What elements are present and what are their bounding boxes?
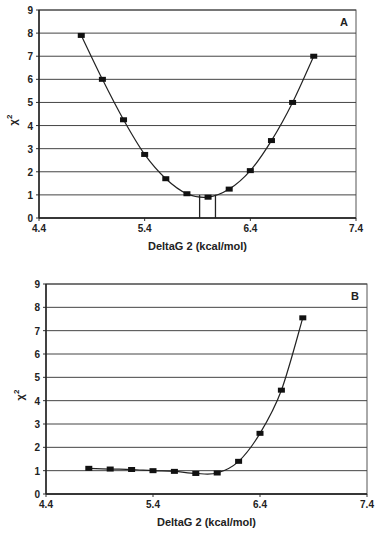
y-tick-label: 5 (27, 97, 33, 108)
y-tick-label: 1 (27, 190, 33, 201)
panel-b-chart: 01234567894.45.46.47.4BDeltaG 2 (kcal/mo… (12, 279, 374, 528)
data-point-marker (247, 168, 254, 173)
data-point-marker (289, 100, 296, 105)
data-point-marker (299, 315, 306, 320)
data-point-marker (183, 191, 190, 196)
y-tick-label: 6 (27, 74, 33, 85)
data-point-marker (226, 187, 233, 192)
x-tick-label: 4.4 (39, 499, 53, 510)
y-tick-label: 5 (34, 372, 40, 383)
y-tick-label: 4 (27, 121, 33, 132)
data-point-marker (278, 388, 285, 393)
plot-area (39, 10, 356, 218)
y-tick-label: 2 (27, 167, 33, 178)
data-point-marker (78, 33, 85, 38)
panel-label: B (351, 290, 359, 302)
data-point-marker (268, 138, 275, 143)
data-point-marker (192, 471, 199, 476)
y-axis-label: χ2 (12, 389, 26, 400)
x-tick-label: 4.4 (32, 223, 46, 234)
x-tick-label: 5.4 (146, 499, 160, 510)
y-tick-label: 3 (34, 419, 40, 430)
y-axis-label: χ2 (5, 114, 19, 125)
data-point-marker (162, 176, 169, 181)
data-point-marker (150, 468, 157, 473)
data-line (89, 318, 303, 474)
y-tick-label: 2 (34, 442, 40, 453)
x-tick-label: 7.4 (360, 499, 374, 510)
data-point-marker (99, 77, 106, 82)
y-tick-label: 9 (34, 279, 40, 290)
data-point-marker (85, 466, 92, 471)
data-point-marker (235, 459, 242, 464)
data-point-marker (214, 471, 221, 476)
data-point-marker (257, 431, 264, 436)
y-tick-label: 8 (34, 302, 40, 313)
x-tick-label: 6.4 (243, 223, 257, 234)
data-point-marker (128, 467, 135, 472)
data-point-marker (141, 152, 148, 157)
x-tick-label: 5.4 (138, 223, 152, 234)
plot-area (46, 284, 367, 494)
y-tick-label: 6 (34, 349, 40, 360)
y-tick-label: 1 (34, 466, 40, 477)
x-axis-label: DeltaG 2 (kcal/mol) (148, 240, 247, 252)
y-tick-label: 4 (34, 396, 40, 407)
y-tick-label: 7 (27, 51, 33, 62)
panel-label: A (340, 16, 348, 28)
y-tick-label: 8 (27, 28, 33, 39)
x-axis-label: DeltaG 2 (kcal/mol) (157, 516, 256, 528)
data-point-marker (310, 54, 317, 59)
x-tick-label: 7.4 (349, 223, 363, 234)
data-point-marker (120, 117, 127, 122)
y-tick-label: 3 (27, 144, 33, 155)
x-tick-label: 6.4 (253, 499, 267, 510)
y-tick-label: 9 (27, 5, 33, 16)
data-point-marker (171, 469, 178, 474)
panel-a-chart: 01234567894.45.46.47.4ADeltaG 2 (kcal/mo… (5, 5, 363, 252)
data-point-marker (205, 195, 212, 200)
data-line (81, 35, 313, 197)
data-point-marker (107, 467, 114, 472)
figure: 01234567894.45.46.47.4ADeltaG 2 (kcal/mo… (0, 0, 385, 534)
y-tick-label: 7 (34, 326, 40, 337)
